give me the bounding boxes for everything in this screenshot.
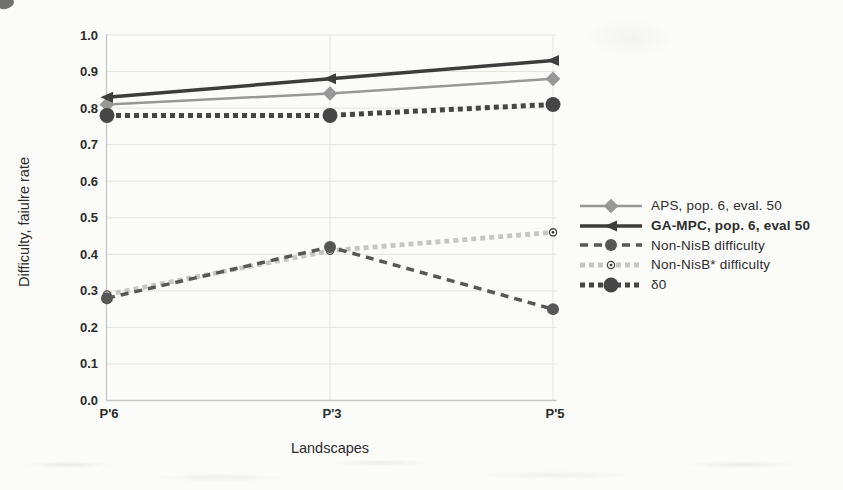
y-tick-label: 0.1 [80, 356, 98, 371]
data-point [605, 220, 618, 231]
legend-label: Non-NisB difficulty [651, 238, 765, 253]
y-tick-label: 0.6 [80, 174, 98, 189]
legend-marker [578, 218, 644, 234]
data-point [100, 108, 115, 123]
data-point [546, 97, 561, 112]
legend-item: GA-MPC, pop. 6, eval 50 [578, 216, 810, 236]
legend-item: δ0 [578, 275, 810, 295]
legend-marker [578, 237, 644, 253]
legend-label: GA-MPC, pop. 6, eval 50 [651, 218, 810, 233]
chart-figure: 0.00.10.20.30.40.50.60.70.80.91.0P'6P'3P… [0, 0, 843, 490]
legend-marker [578, 257, 644, 273]
legend-marker [578, 198, 644, 214]
y-tick-label: 0.4 [80, 247, 99, 262]
data-point [547, 303, 559, 315]
legend-label: APS, pop. 6, eval. 50 [651, 198, 782, 213]
data-point [323, 86, 338, 101]
y-tick-label: 0.8 [80, 101, 98, 116]
x-tick-label: P'6 [100, 406, 119, 421]
y-tick-label: 1.0 [80, 28, 98, 43]
y-tick-label: 0.3 [80, 283, 98, 298]
plot-area: 0.00.10.20.30.40.50.60.70.80.91.0P'6P'3P… [80, 28, 565, 421]
x-tick-label: P'3 [323, 406, 342, 421]
data-point [324, 241, 336, 253]
legend-label: Non-NisB* difficulty [651, 257, 770, 272]
data-point [605, 239, 617, 251]
data-point [552, 231, 555, 234]
data-point [101, 292, 113, 304]
y-tick-label: 0.0 [80, 393, 98, 408]
legend-item: Non-NisB* difficulty [578, 255, 810, 275]
x-axis-title: Landscapes [291, 440, 369, 456]
legend-item: APS, pop. 6, eval. 50 [578, 196, 810, 216]
y-tick-label: 0.9 [80, 64, 98, 79]
data-point [604, 198, 619, 213]
y-tick-label: 0.7 [80, 137, 98, 152]
legend-item: Non-NisB difficulty [578, 235, 810, 255]
x-tick-label: P'5 [546, 406, 565, 421]
legend-marker [578, 277, 644, 293]
data-point [604, 277, 619, 292]
legend-label: δ0 [651, 277, 666, 292]
data-point [610, 264, 613, 267]
y-axis-title: Difficulty, faiulre rate [16, 157, 32, 287]
legend: APS, pop. 6, eval. 50GA-MPC, pop. 6, eva… [578, 196, 810, 294]
y-tick-label: 0.5 [80, 210, 98, 225]
data-point [323, 108, 338, 123]
data-point [546, 72, 561, 87]
y-tick-label: 0.2 [80, 320, 98, 335]
